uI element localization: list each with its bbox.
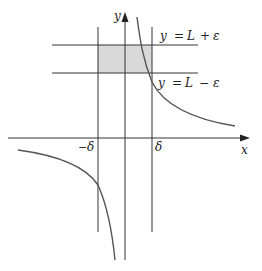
y-axis-arrow-icon [122, 12, 129, 22]
svg-text:=: = [174, 29, 184, 43]
x-axis-label: x [241, 143, 248, 157]
svg-text:ε: ε [213, 29, 219, 43]
x-axis-arrow-icon [240, 135, 250, 142]
svg-text:−: − [199, 76, 209, 90]
y-axis-label: y [113, 9, 121, 23]
svg-text:=: = [172, 76, 182, 90]
epsilon-delta-diagram: y x y = L + ε y = L − ε − δ δ [0, 0, 262, 271]
svg-text:L: L [184, 76, 193, 90]
svg-text:+: + [200, 29, 210, 43]
neg-delta-label: − δ [78, 140, 94, 154]
lower-epsilon-label: y = L − ε [157, 76, 219, 90]
pos-delta-label: δ [155, 140, 162, 154]
svg-text:y: y [157, 76, 165, 90]
svg-text:δ: δ [87, 140, 94, 154]
left-branch-curve [18, 150, 115, 260]
svg-text:−: − [78, 141, 87, 154]
svg-text:L: L [186, 29, 195, 43]
svg-text:ε: ε [213, 76, 219, 90]
upper-epsilon-label: y = L + ε [159, 29, 219, 43]
svg-text:y: y [159, 29, 167, 43]
